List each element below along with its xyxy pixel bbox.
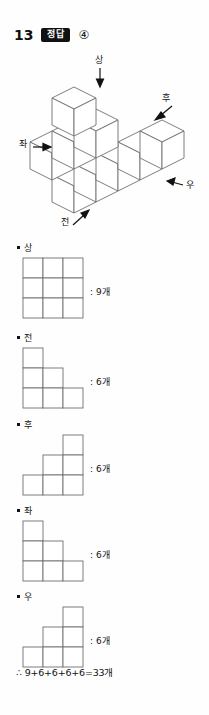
arrow-front-shaft: [73, 215, 84, 225]
cube-stack-figure: 상 후 좌 우 전: [0, 52, 209, 237]
arrow-right-head: [167, 178, 175, 185]
arrow-top-head: [97, 79, 104, 87]
cube-bottom-back-4: [140, 120, 184, 169]
figure-label-front: 전: [61, 218, 69, 227]
view-count-right: : 6개: [90, 637, 110, 646]
figure-label-back: 후: [162, 94, 170, 103]
view-label-front: 전: [24, 333, 32, 343]
view-heading-back: 후: [17, 421, 32, 430]
view-count-top: : 9개: [90, 288, 110, 297]
figure-label-left: 좌: [19, 140, 27, 149]
bullet-icon: [17, 509, 20, 512]
bullet-icon: [17, 336, 20, 339]
figure-label-top: 상: [95, 56, 103, 65]
answer-choice: ④: [78, 29, 89, 41]
view-grid-back: [22, 434, 88, 498]
cube-stack-drawing: [0, 52, 209, 237]
question-number: 13: [14, 27, 33, 43]
figure-label-right: 우: [186, 181, 194, 190]
view-count-back: : 6개: [90, 465, 110, 474]
view-count-front: : 6개: [90, 378, 110, 387]
answer-badge: 정답: [41, 28, 70, 42]
view-heading-top: 상: [17, 244, 32, 253]
view-label-left: 좌: [24, 506, 32, 516]
view-label-right: 우: [24, 592, 32, 602]
view-count-left: : 6개: [90, 551, 110, 560]
view-heading-front: 전: [17, 334, 32, 343]
view-heading-right: 우: [17, 593, 32, 602]
solution-page: 13 정답 ④: [0, 0, 209, 715]
view-grid-left: [22, 520, 88, 584]
bullet-icon: [17, 423, 20, 426]
view-heading-left: 좌: [17, 507, 32, 516]
conclusion-line: ∴ 9+6+6+6+6=33개: [16, 668, 113, 678]
view-label-back: 후: [24, 420, 32, 430]
view-grid-right: [22, 606, 88, 670]
question-header: 13 정답 ④: [14, 27, 89, 43]
bullet-icon: [17, 246, 20, 249]
cube-top-1: [52, 87, 96, 136]
view-grid-front: [22, 347, 88, 411]
view-grid-top: [22, 257, 88, 321]
view-label-top: 상: [24, 243, 32, 253]
bullet-icon: [17, 595, 20, 598]
